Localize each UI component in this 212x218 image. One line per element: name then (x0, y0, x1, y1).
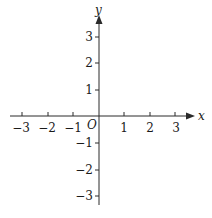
y-tick-label: 3 (85, 30, 93, 44)
origin-label: O (87, 118, 97, 132)
y-axis-label: y (94, 3, 102, 17)
y-tick-label: −2 (75, 163, 93, 177)
y-tick-label: −3 (75, 189, 93, 203)
y-tick-label: 2 (85, 56, 93, 70)
x-tick-label: −2 (38, 121, 56, 135)
x-axis-arrow-icon (186, 113, 195, 120)
x-tick-label: 3 (172, 121, 180, 135)
y-tick-label: 1 (85, 83, 93, 97)
x-axis-label: x (198, 109, 205, 123)
x-tick-label: −3 (12, 121, 30, 135)
x-tick-label: −1 (64, 121, 82, 135)
y-tick-label: −1 (75, 136, 93, 150)
x-tick-label: 2 (146, 121, 154, 135)
coordinate-plane: x y −3 −2 −1 1 2 3 3 2 1 −1 −2 −3 O (0, 0, 212, 218)
x-tick-label: 1 (120, 121, 128, 135)
